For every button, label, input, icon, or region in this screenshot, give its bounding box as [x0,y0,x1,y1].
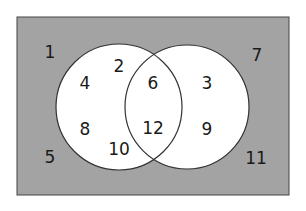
number-6: 6 [148,73,159,93]
number-10: 10 [108,139,130,159]
number-1: 1 [45,42,56,62]
number-11: 11 [245,148,267,168]
number-2: 2 [114,56,125,76]
number-5: 5 [45,147,56,167]
number-9: 9 [202,119,213,139]
number-3: 3 [202,73,213,93]
number-12: 12 [142,118,164,138]
right-circle-fill [125,45,249,169]
number-8: 8 [80,119,91,139]
number-7: 7 [252,45,263,65]
venn-diagram: 1 2 4 6 3 7 8 12 9 10 5 11 [0,0,306,211]
number-4: 4 [80,73,91,93]
